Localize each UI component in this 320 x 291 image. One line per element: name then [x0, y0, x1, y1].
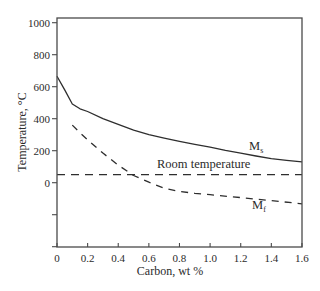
x-tick-label: 0.6: [142, 252, 156, 264]
x-tick-label: 1.0: [203, 252, 217, 264]
y-tick-label: 200: [34, 145, 51, 157]
y-tick-label: 1000: [28, 17, 51, 29]
ms-curve-label: Ms: [249, 139, 263, 155]
y-tick-label: 400: [34, 113, 51, 125]
x-tick-label: 0.8: [173, 252, 187, 264]
x-tick-label: 1.2: [234, 252, 248, 264]
mf-label-main: M: [252, 198, 263, 212]
martensite-temperature-chart: 02004006008001000 00.20.40.60.81.01.21.4…: [0, 0, 320, 291]
y-axis-ticks: 02004006008001000: [28, 17, 57, 247]
ms-line: [57, 76, 302, 162]
room-temperature-label: Room temperature: [157, 157, 251, 171]
x-tick-label: 1.4: [264, 252, 278, 264]
x-tick-label: 1.6: [295, 252, 309, 264]
y-tick-label: 600: [34, 81, 51, 93]
mf-label-sub: f: [263, 205, 266, 214]
x-tick-label: 0.4: [111, 252, 125, 264]
ms-label-sub: s: [260, 146, 263, 155]
y-tick-label: 0: [45, 177, 51, 189]
x-tick-label: 0: [54, 252, 60, 264]
x-axis-title: Carbon, wt %: [137, 264, 203, 278]
y-tick-label: 800: [34, 49, 51, 61]
x-axis-ticks: 00.20.40.60.81.01.21.41.6: [54, 243, 309, 264]
ms-label-main: M: [249, 139, 260, 153]
plot-curves: [57, 76, 302, 204]
x-tick-label: 0.2: [81, 252, 95, 264]
y-axis-title: Temperature, °C: [15, 92, 29, 171]
